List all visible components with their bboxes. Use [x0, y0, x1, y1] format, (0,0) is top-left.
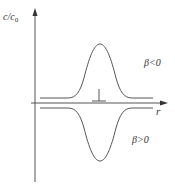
annotation-beta-positive: β>0 — [132, 135, 149, 145]
concentration-profile-diagram: c/c0 r β<0 β>0 — [0, 0, 175, 187]
upper-curve-beta-negative — [40, 44, 153, 98]
y-axis-label: c/c0 — [3, 12, 18, 24]
y-axis-arrow-icon — [33, 8, 38, 16]
y-axis-label-main: c/c — [3, 11, 15, 22]
x-axis-label: r — [156, 106, 160, 117]
diagram-canvas — [0, 0, 175, 187]
x-axis-arrow-icon — [160, 101, 168, 106]
annotation-beta-negative: β<0 — [144, 58, 161, 68]
y-axis-label-subscript: 0 — [15, 16, 19, 24]
